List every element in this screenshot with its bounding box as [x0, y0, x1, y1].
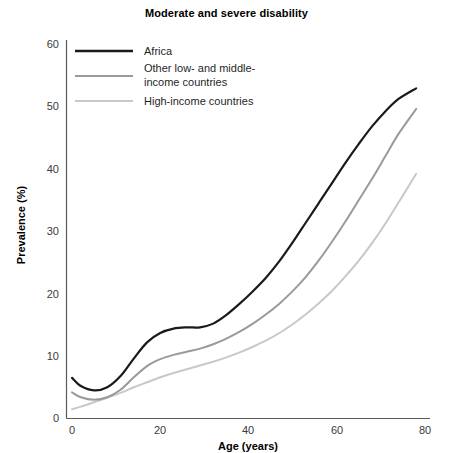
legend-label-other-lmic-line2: income countries [144, 76, 228, 88]
legend-label-other-lmic-line1: Other low- and middle- [144, 62, 256, 74]
x-tick-60: 60 [331, 424, 343, 436]
chart-legend: Africa Other low- and middle- income cou… [75, 45, 256, 107]
y-tick-20: 20 [47, 288, 59, 300]
x-tick-0: 0 [69, 424, 75, 436]
series-line-africa [72, 88, 416, 390]
x-tick-20: 20 [154, 424, 166, 436]
y-axis-title: Prevalence (%) [15, 186, 27, 265]
chart-plot-area: 60 50 40 30 20 10 0 0 20 40 60 80 Age (y… [0, 0, 453, 453]
x-tick-40: 40 [242, 424, 254, 436]
y-tick-10: 10 [47, 350, 59, 362]
y-tick-30: 30 [47, 225, 59, 237]
y-tick-0: 0 [53, 412, 59, 424]
x-axis-title: Age (years) [218, 440, 278, 452]
y-tick-50: 50 [47, 100, 59, 112]
y-tick-40: 40 [47, 163, 59, 175]
x-tick-80: 80 [419, 424, 431, 436]
legend-label-africa: Africa [144, 45, 173, 57]
chart-figure: Moderate and severe disability 60 50 40 … [0, 0, 453, 453]
y-tick-60: 60 [47, 38, 59, 50]
x-axis-tick-labels: 0 20 40 60 80 [69, 424, 431, 436]
y-axis-tick-labels: 60 50 40 30 20 10 0 [47, 38, 59, 424]
legend-label-high-income: High-income countries [144, 95, 254, 107]
